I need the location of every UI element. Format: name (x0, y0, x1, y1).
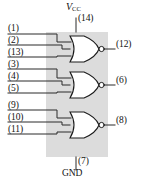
pin-label-12: (12) (116, 40, 131, 50)
ic-pinout-diagram: VCC (14) (7) GND (1) (2) (13) (3) (4) (5… (0, 0, 145, 185)
nor-gate-3-inversion-bubble (99, 122, 104, 127)
pin-label-8: (8) (116, 116, 127, 126)
pin-label-10: (10) (8, 113, 23, 123)
pin-label-1: (1) (8, 24, 19, 34)
vcc-subscript: CC (72, 5, 81, 12)
pin-label-13: (13) (8, 48, 23, 58)
circuit-schematic (0, 0, 145, 185)
pin-label-6: (6) (116, 76, 127, 86)
vcc-label: VCC (66, 2, 81, 13)
pin-label-9: (9) (8, 101, 19, 111)
pin-label-2: (2) (8, 36, 19, 46)
pin-label-5: (5) (8, 84, 19, 94)
pin-label-4: (4) (8, 72, 19, 82)
pin-label-3: (3) (8, 60, 19, 70)
gnd-label: GND (62, 169, 82, 179)
nor-gate-2-inversion-bubble (99, 82, 104, 87)
pin-label-11: (11) (8, 125, 23, 135)
pin-label-14: (14) (78, 14, 93, 24)
pin-label-7: (7) (78, 157, 89, 167)
nor-gate-1-inversion-bubble (99, 46, 104, 51)
